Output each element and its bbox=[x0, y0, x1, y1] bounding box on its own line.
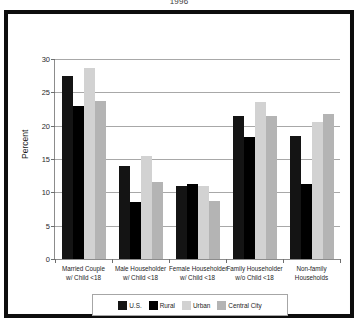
bar-group bbox=[176, 59, 220, 259]
x-axis-tick bbox=[226, 259, 227, 263]
bar bbox=[312, 122, 323, 259]
x-axis-label-line: Married Couple bbox=[55, 265, 112, 274]
bar bbox=[95, 101, 106, 259]
x-axis-tick bbox=[169, 259, 170, 263]
y-axis-tick-label: 10 bbox=[42, 188, 50, 197]
legend-item: Rural bbox=[149, 301, 175, 310]
y-axis-tick-label: 15 bbox=[42, 155, 50, 164]
bar-group bbox=[119, 59, 163, 259]
bar bbox=[187, 184, 198, 259]
y-axis-title: Percent bbox=[20, 130, 30, 159]
bar bbox=[141, 156, 152, 259]
bar bbox=[209, 201, 220, 259]
x-axis-label-line: Non-family bbox=[283, 265, 340, 274]
chart-legend: U.S.RuralUrbanCentral City bbox=[92, 294, 288, 316]
legend-swatch bbox=[182, 301, 191, 310]
x-axis-label-line: Male Householder bbox=[112, 265, 169, 274]
bar-group bbox=[290, 59, 334, 259]
legend-label: Urban bbox=[193, 302, 210, 309]
x-axis-label-line: w/o Child <18 bbox=[226, 274, 283, 283]
y-axis-tick-label: 0 bbox=[46, 255, 50, 264]
x-axis-label: Married Couplew/ Child <18 bbox=[55, 265, 112, 282]
x-axis-tick bbox=[340, 259, 341, 263]
plot-area: 051015202530 Married Couplew/ Child <18M… bbox=[54, 59, 340, 260]
bar bbox=[84, 68, 95, 259]
y-axis-tick-label: 20 bbox=[42, 121, 50, 130]
x-axis-label: Family Householderw/o Child <18 bbox=[226, 265, 283, 282]
bar bbox=[176, 186, 187, 259]
legend-label: U.S. bbox=[129, 302, 141, 309]
chart-title: 1996 bbox=[0, 0, 358, 6]
x-axis-tick bbox=[112, 259, 113, 263]
x-axis-label-line: w/ Child <18 bbox=[55, 274, 112, 283]
bar bbox=[233, 116, 244, 259]
x-axis-label-line: w/ Child <18 bbox=[112, 274, 169, 283]
legend-label: Central City bbox=[228, 302, 261, 309]
bar-group bbox=[62, 59, 106, 259]
legend-label: Rural bbox=[160, 302, 175, 309]
legend-item: Urban bbox=[182, 301, 210, 310]
legend-swatch bbox=[217, 301, 226, 310]
bar bbox=[323, 114, 334, 259]
x-axis-tick bbox=[283, 259, 284, 263]
y-axis-tick-label: 5 bbox=[46, 221, 50, 230]
bar bbox=[152, 182, 163, 259]
x-axis-label: Male Householderw/ Child <18 bbox=[112, 265, 169, 282]
x-axis-label: Female Householderw/ Child <18 bbox=[169, 265, 226, 282]
bar bbox=[301, 184, 312, 259]
legend-swatch bbox=[149, 301, 158, 310]
bar bbox=[255, 102, 266, 259]
bar bbox=[244, 137, 255, 259]
bar bbox=[119, 166, 130, 259]
x-axis-label: Non-familyHouseholds bbox=[283, 265, 340, 282]
y-axis-tick-label: 30 bbox=[42, 55, 50, 64]
bar-group bbox=[233, 59, 277, 259]
x-axis-tick bbox=[55, 259, 56, 263]
legend-item: U.S. bbox=[118, 301, 141, 310]
chart-screenshot: 1996 Percent 051015202530 Married Couple… bbox=[0, 0, 358, 323]
bar bbox=[266, 116, 277, 259]
bar bbox=[62, 76, 73, 259]
legend-item: Central City bbox=[217, 301, 261, 310]
x-axis-label-line: Female Householder bbox=[169, 265, 226, 274]
bar-groups bbox=[55, 59, 340, 259]
chart-frame: Percent 051015202530 Married Couplew/ Ch… bbox=[4, 10, 354, 318]
bar bbox=[130, 202, 141, 259]
y-axis-tick-label: 25 bbox=[42, 88, 50, 97]
bar bbox=[198, 186, 209, 259]
x-axis-label-line: Family Householder bbox=[226, 265, 283, 274]
x-axis-label-line: Households bbox=[283, 274, 340, 283]
x-axis-label-line: w/ Child <18 bbox=[169, 274, 226, 283]
bar bbox=[73, 106, 84, 259]
legend-swatch bbox=[118, 301, 127, 310]
bar bbox=[290, 136, 301, 259]
